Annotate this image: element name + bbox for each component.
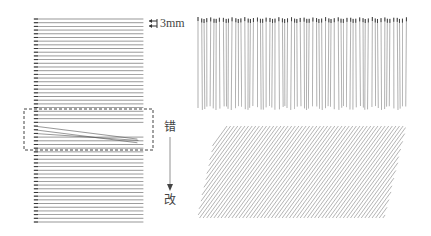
horizontal-lines-drawing [0, 0, 190, 236]
error-label: 错 [164, 121, 176, 133]
correction-label: 改 [164, 194, 176, 206]
diagonal-line-practice [190, 118, 431, 236]
vertical-lines-drawing [190, 0, 431, 118]
diagonal-hatching-drawing [190, 118, 431, 236]
vertical-line-practice [190, 0, 431, 118]
spacing-label: 3mm [160, 17, 185, 29]
spacing-arrow-icon [149, 19, 152, 28]
horizontal-line-practice [0, 0, 190, 236]
down-arrow-icon [167, 184, 173, 191]
